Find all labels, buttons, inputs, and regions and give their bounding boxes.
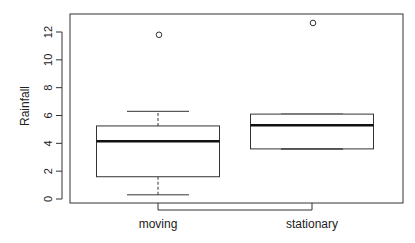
y-tick-label: 12: [42, 26, 54, 38]
x-tick-label: moving: [139, 217, 178, 231]
y-tick-label: 4: [42, 140, 54, 146]
outlier-point: [156, 32, 162, 38]
x-axis: movingstationary: [139, 203, 338, 231]
y-tick-label: 0: [42, 196, 54, 202]
y-tick-label: 8: [42, 85, 54, 91]
y-axis-label: Rainfall: [18, 86, 32, 126]
box-stationary: [251, 20, 374, 149]
iqr-box: [251, 114, 374, 149]
outlier-point: [310, 20, 316, 26]
boxplot-chart: 024681012 movingstationary Rainfall: [0, 0, 415, 243]
boxes: [97, 20, 374, 195]
box-moving: [97, 32, 220, 195]
y-tick-label: 2: [42, 168, 54, 174]
y-tick-label: 10: [42, 54, 54, 66]
y-axis: 024681012: [42, 26, 62, 202]
y-tick-label: 6: [42, 112, 54, 118]
x-tick-label: stationary: [286, 217, 338, 231]
iqr-box: [97, 126, 220, 177]
